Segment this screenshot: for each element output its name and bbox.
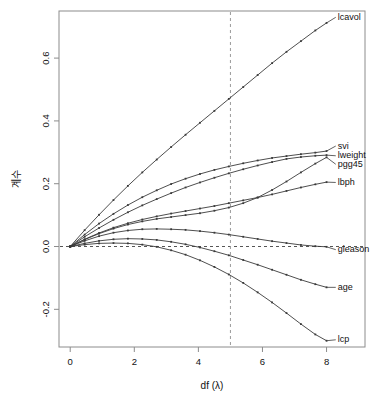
series-point-lweight — [185, 187, 187, 189]
series-point-age — [257, 264, 259, 266]
series-point-svi — [228, 166, 230, 168]
series-point-lcp — [199, 259, 201, 261]
series-point-age — [314, 283, 316, 285]
series-point-lbph — [286, 190, 288, 192]
series-point-gleason — [271, 240, 273, 242]
series-point-lbph — [141, 219, 143, 221]
series-point-lcavol — [84, 229, 86, 231]
series-point-pgg45 — [300, 172, 302, 174]
series-point-svi — [199, 173, 201, 175]
series-point-lbph — [185, 210, 187, 212]
series-point-gleason — [300, 244, 302, 246]
series-point-age — [156, 239, 158, 241]
series-point-lcavol — [257, 74, 259, 76]
series-line-lcavol[interactable] — [70, 23, 326, 247]
series-label-lcavol: lcavol — [338, 12, 361, 22]
series-point-lweight — [113, 219, 115, 221]
series-point-pgg45 — [314, 163, 316, 165]
series-point-lweight — [98, 227, 100, 229]
chart-canvas: 02468-0.20.00.20.40.6df (λ)계수lcavolsvilw… — [0, 0, 382, 406]
series-point-lcavol — [170, 146, 172, 148]
series-line-gleason[interactable] — [70, 229, 326, 247]
series-point-svi — [271, 157, 273, 159]
series-point-svi — [127, 204, 129, 206]
series-line-pgg45[interactable] — [70, 157, 326, 246]
series-point-svi — [98, 223, 100, 225]
series-point-lweight — [300, 156, 302, 158]
series-point-lcavol — [228, 98, 230, 100]
series-point-lcp — [300, 323, 302, 325]
series-point-lcavol — [113, 199, 115, 201]
series-point-svi — [156, 189, 158, 191]
series-line-lcp[interactable] — [70, 243, 326, 341]
series-point-pgg45 — [156, 218, 158, 220]
series-point-age — [170, 241, 172, 243]
series-point-lbph — [127, 222, 129, 224]
series-point-gleason — [185, 229, 187, 231]
series-point-lweight — [127, 211, 129, 213]
series-point-gleason — [214, 232, 216, 234]
series-point-gleason — [113, 232, 115, 234]
series-point-lweight — [199, 182, 201, 184]
series-point-lweight — [314, 155, 316, 157]
y-tick-label: 0.6 — [40, 51, 51, 64]
series-point-svi — [286, 155, 288, 157]
series-point-lweight — [214, 177, 216, 179]
series-point-lweight — [271, 161, 273, 163]
series-point-lcavol — [156, 159, 158, 161]
series-point-lcp — [228, 274, 230, 276]
series-line-lweight[interactable] — [70, 155, 326, 246]
x-tick-label: 0 — [68, 356, 73, 367]
series-point-lcp — [156, 246, 158, 248]
series-point-lweight — [228, 172, 230, 174]
x-axis-title: df (λ) — [201, 380, 224, 391]
series-point-lcp — [257, 291, 259, 293]
series-point-lcavol — [271, 62, 273, 64]
series-point-gleason — [127, 230, 129, 232]
ridge-coefficient-path-chart: 02468-0.20.00.20.40.6df (λ)계수lcavolsvilw… — [0, 0, 382, 406]
series-point-svi — [214, 169, 216, 171]
series-point-lcavol — [286, 51, 288, 53]
series-point-svi — [113, 213, 115, 215]
x-tick-label: 4 — [196, 356, 201, 367]
series-point-lcp — [69, 246, 71, 248]
series-leader-lcavol — [327, 17, 336, 23]
series-point-pgg45 — [170, 216, 172, 218]
series-point-lcp — [170, 249, 172, 251]
series-leader-lcp — [327, 340, 336, 341]
series-point-lcavol — [98, 214, 100, 216]
series-leader-gleason — [327, 247, 336, 250]
series-line-lbph[interactable] — [70, 182, 326, 246]
series-point-lbph — [98, 232, 100, 234]
series-point-lcp — [141, 244, 143, 246]
series-line-svi[interactable] — [70, 151, 326, 246]
series-point-lweight — [257, 165, 259, 167]
series-line-age[interactable] — [70, 239, 326, 288]
series-point-age — [199, 247, 201, 249]
series-point-svi — [170, 183, 172, 185]
series-point-lweight — [84, 236, 86, 238]
series-point-gleason — [98, 235, 100, 237]
series-point-lweight — [242, 168, 244, 170]
series-point-gleason — [156, 228, 158, 230]
series-point-gleason — [228, 234, 230, 236]
series-point-lbph — [300, 187, 302, 189]
series-point-gleason — [170, 228, 172, 230]
series-point-lcavol — [127, 185, 129, 187]
series-point-svi — [242, 162, 244, 164]
series-point-lbph — [314, 183, 316, 185]
series-point-lbph — [214, 205, 216, 207]
series-point-lcp — [185, 254, 187, 256]
series-label-age: age — [338, 282, 353, 292]
series-leader-lweight — [327, 155, 336, 156]
series-point-pgg45 — [199, 212, 201, 214]
series-point-lcp — [127, 242, 129, 244]
y-tick-label: -0.2 — [40, 301, 51, 317]
series-point-lbph — [257, 197, 259, 199]
series-point-lbph — [156, 215, 158, 217]
y-tick-label: 0.0 — [40, 240, 51, 253]
x-tick-label: 2 — [132, 356, 137, 367]
series-point-lbph — [242, 199, 244, 201]
series-point-lcavol — [300, 40, 302, 42]
series-point-age — [286, 274, 288, 276]
